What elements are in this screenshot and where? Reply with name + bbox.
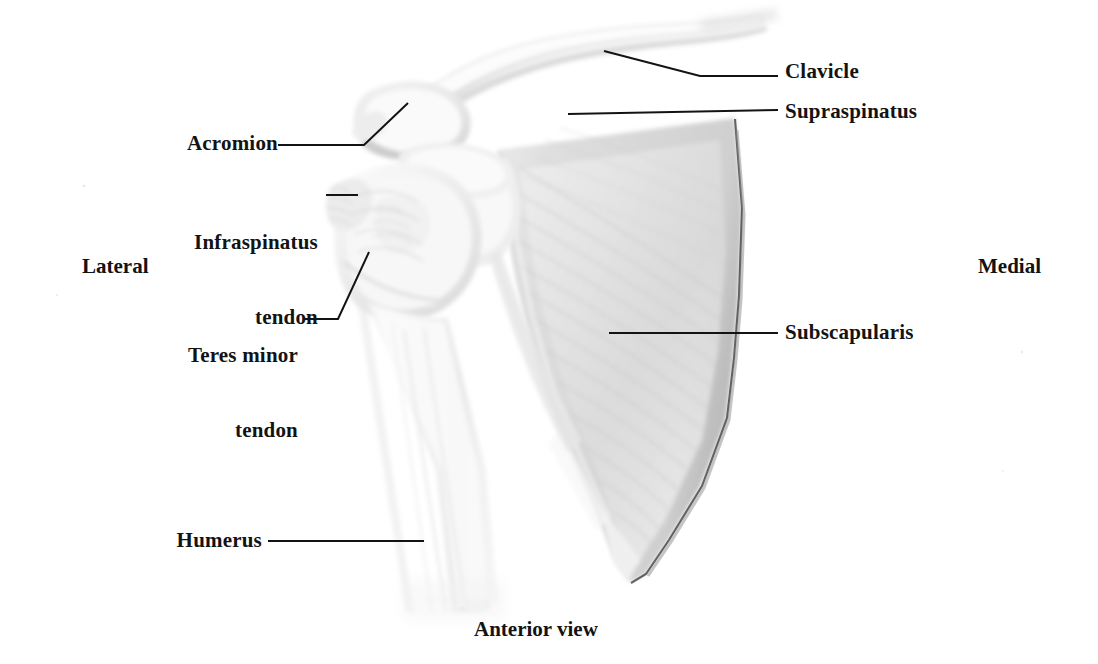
- orientation-label-medial: Medial: [978, 254, 1041, 279]
- figure-caption: Anterior view: [474, 617, 598, 642]
- label-infraspinatus-tendon-line1: Infraspinatus: [138, 230, 318, 255]
- label-subscapularis: Subscapularis: [785, 320, 914, 345]
- label-teres-minor-tendon-line1: Teres minor: [140, 343, 298, 368]
- label-teres-minor-tendon-line2: tendon: [140, 418, 298, 443]
- label-humerus: Humerus: [108, 528, 262, 553]
- label-supraspinatus: Supraspinatus: [785, 99, 917, 124]
- label-acromion: Acromion: [118, 131, 278, 156]
- humerus-shaft: [358, 300, 498, 612]
- orientation-label-lateral: Lateral: [82, 254, 148, 279]
- label-teres-minor-tendon: Teres minor tendon: [140, 293, 298, 468]
- label-clavicle: Clavicle: [785, 59, 859, 84]
